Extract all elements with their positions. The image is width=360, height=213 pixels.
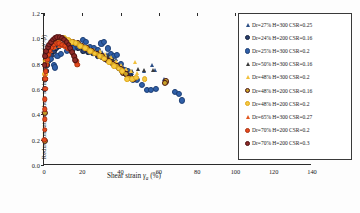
x-tick-label: 100	[231, 168, 241, 175]
data-point	[74, 40, 80, 46]
data-point	[66, 42, 72, 48]
data-point	[100, 50, 104, 54]
data-point	[127, 73, 133, 79]
data-point	[172, 88, 178, 94]
data-point	[92, 48, 96, 52]
data-point	[57, 44, 61, 48]
legend-item: Dr=70% H=200 CSR=0.3	[243, 137, 351, 150]
data-point	[153, 86, 159, 92]
y-tick-mark	[41, 114, 44, 115]
data-point	[99, 54, 105, 60]
data-point	[111, 63, 117, 69]
data-point	[57, 41, 62, 46]
legend-label: Dr=27% H=300 CSR=0.25	[252, 22, 312, 28]
data-point	[101, 39, 107, 45]
data-point	[118, 62, 122, 66]
data-point	[51, 40, 55, 44]
data-point	[68, 46, 74, 52]
x-tick-label: 20	[79, 168, 85, 175]
y-tick-mark	[41, 89, 44, 90]
x-tick-mark	[44, 13, 45, 16]
data-point	[51, 42, 56, 47]
data-point	[106, 54, 110, 58]
data-point	[51, 38, 57, 44]
data-point	[58, 50, 64, 56]
data-point	[72, 53, 76, 57]
data-point	[73, 41, 77, 45]
data-point	[143, 77, 147, 81]
data-point	[59, 35, 65, 41]
y-tick-mark	[41, 38, 44, 39]
data-point	[54, 46, 60, 52]
data-point	[52, 64, 58, 70]
data-point	[58, 41, 62, 45]
y-tick-label: 0.8	[32, 60, 40, 67]
data-point	[130, 69, 134, 73]
data-point	[87, 48, 93, 54]
data-point	[121, 65, 125, 69]
data-point	[98, 49, 102, 53]
legend-item: Dr=50% H=300 CSR=0.16	[243, 58, 351, 71]
data-point	[112, 62, 118, 68]
data-point	[47, 52, 51, 56]
data-point	[59, 42, 65, 48]
data-point	[105, 52, 109, 56]
data-point	[69, 49, 75, 55]
data-point	[86, 45, 90, 49]
circle-marker-icon	[243, 35, 252, 40]
data-point	[90, 48, 94, 52]
data-point	[125, 68, 129, 72]
data-point	[65, 46, 70, 51]
data-point	[70, 51, 75, 56]
data-point	[53, 43, 57, 47]
data-point	[76, 41, 80, 45]
x-tick-mark	[159, 13, 160, 16]
data-point	[130, 71, 134, 75]
circle-marker-icon	[243, 101, 252, 106]
data-point	[163, 79, 167, 83]
data-point	[176, 91, 182, 97]
data-point	[80, 37, 86, 43]
data-point	[98, 40, 104, 46]
data-point	[124, 67, 128, 71]
y-tick-mark	[41, 165, 44, 166]
data-point	[62, 37, 68, 43]
data-point	[148, 87, 154, 93]
data-point	[110, 61, 116, 67]
data-point	[120, 69, 126, 75]
data-point	[56, 36, 60, 40]
data-point	[82, 46, 86, 50]
x-tick-mark	[121, 13, 122, 16]
y-tick-mark	[41, 140, 44, 141]
triangle-marker-icon	[243, 62, 252, 66]
data-point	[124, 76, 130, 82]
data-point	[75, 63, 79, 67]
data-point	[66, 46, 70, 50]
data-point	[162, 78, 168, 84]
data-point	[84, 45, 88, 49]
data-point	[62, 43, 67, 48]
data-point	[120, 68, 126, 74]
data-point	[90, 51, 96, 57]
data-point	[66, 38, 72, 44]
data-point	[125, 68, 131, 74]
circle-marker-icon	[243, 141, 252, 146]
data-point	[111, 57, 115, 61]
data-point	[104, 57, 110, 63]
data-point	[68, 48, 73, 53]
data-point	[48, 46, 52, 50]
legend-label: Dr=48% H=300 CSR=0.2	[252, 74, 309, 80]
data-point	[54, 38, 58, 42]
data-point	[85, 49, 91, 55]
data-point	[106, 60, 112, 66]
x-tick-mark	[235, 13, 236, 16]
data-point	[47, 44, 53, 50]
legend-item: Dr=48% H=200 CSR=0.2	[243, 97, 351, 110]
data-point	[153, 68, 157, 72]
data-point	[179, 97, 185, 103]
data-point	[116, 66, 122, 72]
data-point	[114, 52, 120, 58]
y-tick-label: 1.0	[32, 35, 40, 42]
data-point	[59, 36, 63, 40]
data-point	[49, 42, 55, 48]
